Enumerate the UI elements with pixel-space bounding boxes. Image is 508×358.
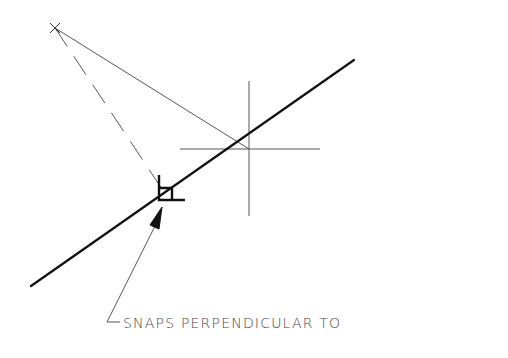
annotation-leader [107, 207, 162, 322]
drawing-canvas: SNAPS PERPENDICULAR TO [0, 0, 508, 358]
annotation-label: SNAPS PERPENDICULAR TO [123, 315, 341, 331]
pick-point-x-icon [50, 23, 60, 33]
perpendicular-projection-line [55, 28, 164, 192]
perpendicular-snap-icon [159, 175, 185, 200]
crosshair-cursor-icon [180, 81, 320, 216]
arrowhead-icon [150, 207, 162, 229]
rubber-band-line [55, 28, 249, 149]
object-line[interactable] [31, 60, 354, 286]
